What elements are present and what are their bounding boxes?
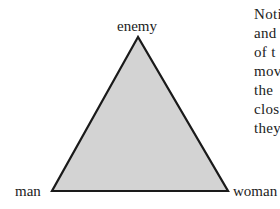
paragraph-line: clos xyxy=(254,100,280,119)
paragraph-line: mov xyxy=(254,62,280,81)
vertex-label-woman: woman xyxy=(233,184,277,199)
paragraph-line: of t xyxy=(254,43,280,62)
paragraph-line: they xyxy=(254,119,280,138)
paragraph-line: Noti xyxy=(254,5,280,24)
vertex-label-man: man xyxy=(15,184,41,199)
triangle-shape xyxy=(52,37,228,191)
body-paragraph: Noti and of t mov the clos they xyxy=(254,5,280,138)
paragraph-line: the xyxy=(254,81,280,100)
paragraph-line: and xyxy=(254,24,280,43)
vertex-label-enemy: enemy xyxy=(117,19,157,34)
